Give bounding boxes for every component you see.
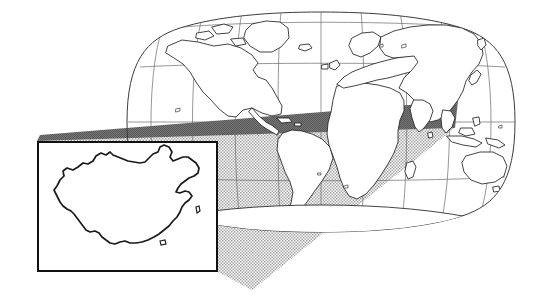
coastline-madagascar: [405, 161, 416, 179]
figure-root: [0, 0, 544, 298]
coastline-scandinavia: [349, 32, 381, 57]
coastline-british-isles: [330, 60, 340, 70]
coastline-australia: [462, 152, 507, 184]
coastline-sri-lanka: [428, 132, 433, 138]
coastline-philippines: [473, 117, 480, 126]
coastline-indonesia: [447, 136, 482, 147]
coastline-arctic-islands-3: [231, 38, 246, 46]
taiwan-outline: [196, 206, 200, 213]
coastline-greenland: [244, 21, 289, 52]
coastline-arctic-islands: [212, 24, 233, 34]
coastline-caribbean-2: [295, 123, 301, 126]
coastline-borneo: [459, 128, 475, 136]
hainan-outline: [160, 240, 166, 245]
coastline-new-guinea: [486, 138, 505, 148]
coastline-arctic-islands-2: [196, 31, 214, 40]
coastline-ireland: [322, 64, 328, 69]
inset-map-china[interactable]: [38, 142, 217, 271]
coastline-new-zealand: [512, 176, 521, 188]
coastline-iceland: [299, 44, 312, 51]
locator-map-figure: [0, 0, 544, 298]
